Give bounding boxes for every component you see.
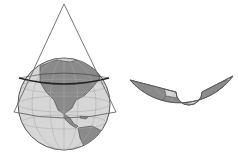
map-graticule <box>131 2 238 150</box>
map-landmass <box>130 2 238 150</box>
conic-projection-diagram <box>0 0 238 155</box>
diagram-canvas <box>0 0 238 155</box>
flattened-conic-map <box>130 2 238 150</box>
